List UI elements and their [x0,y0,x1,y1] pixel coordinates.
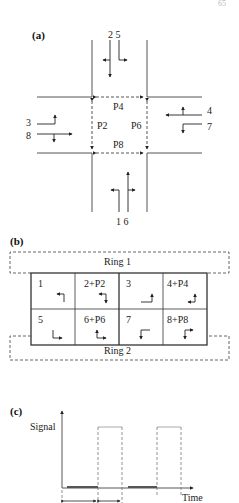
panel-a: (a) P4 P8 P2 P6 [26,29,212,227]
page-number: 65 [218,0,226,8]
x-axis-label: Time [182,492,203,503]
phase-label-8: 8+P8 [167,314,188,325]
phase-label-7: 7 [126,314,131,325]
ped-label-p4: P4 [113,101,124,112]
signal-axes [62,411,193,488]
arrow-5-left [119,40,127,60]
phase-1-left-turn-icon [57,294,64,302]
arrow-1-left [111,190,119,212]
ring-2-label: Ring 2 [104,345,131,356]
ring-1-label: Ring 1 [104,256,131,267]
movement-label-8: 8 [26,130,31,141]
phase-label-1: 1 [38,278,43,289]
panel-b: (b) Ring 1 Ring 2 1 2+P2 3 4+P4 5 6+P6 7… [10,235,229,360]
movement-label-3: 3 [26,117,31,128]
panel-c-label: (c) [10,405,23,418]
phase-label-4: 4+P4 [167,278,188,289]
movement-label-7: 7 [207,121,212,132]
panel-c: (c) Signal Time [10,405,203,503]
phase-label-6: 6+P6 [84,314,105,325]
y-axis-label: Signal [30,421,56,432]
figure: 65 (a) P4 P8 P2 P6 [0,0,239,503]
arrow-7-left [183,124,202,133]
movement-label-south: 1 6 [116,216,129,227]
movement-arrows [37,40,202,212]
ped-label-p8: P8 [113,139,124,150]
arrow-3-left [37,115,55,124]
panel-a-label: (a) [32,29,45,42]
signal-guides [62,427,181,503]
phase-label-5: 5 [38,314,43,325]
ped-label-p2: P2 [97,120,108,131]
movement-label-4: 4 [207,105,212,116]
panel-b-label: (b) [10,235,24,248]
phase-label-2: 2+P2 [84,278,105,289]
movement-label-north: 2 5 [108,29,121,40]
phase-label-3: 3 [126,278,131,289]
phase-7-left-turn-icon [141,330,150,339]
ped-label-p6: P6 [131,120,142,131]
road-edges [37,40,202,212]
phase-5-left-turn-icon [53,330,62,338]
phase-3-left-turn-icon [141,294,152,302]
